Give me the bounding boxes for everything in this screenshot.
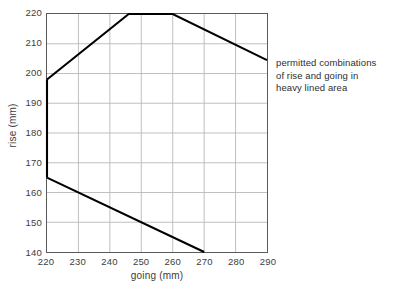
x-axis-title: going (mm) [46, 270, 268, 281]
annotation-line-1: permitted combinations [276, 57, 396, 70]
x-axis-ticks: 220230240250260270280290 [46, 256, 268, 270]
permitted-region-note: permitted combinations of rise and going… [276, 57, 396, 95]
y-tick-label: 210 [12, 38, 42, 48]
y-tick-label: 150 [12, 218, 42, 228]
y-axis-title: rise (mm) [7, 86, 18, 166]
permitted-region-boundary [47, 14, 267, 252]
x-tick-label: 290 [248, 256, 288, 267]
y-tick-label: 200 [12, 68, 42, 78]
plot-area [46, 13, 268, 253]
y-tick-label: 160 [12, 188, 42, 198]
y-tick-label: 220 [12, 8, 42, 18]
annotation-line-2: of rise and going in [276, 70, 396, 83]
annotation-line-3: heavy lined area [276, 82, 396, 95]
chart-figure: 140150160170180190200210220 220230240250… [0, 0, 399, 300]
